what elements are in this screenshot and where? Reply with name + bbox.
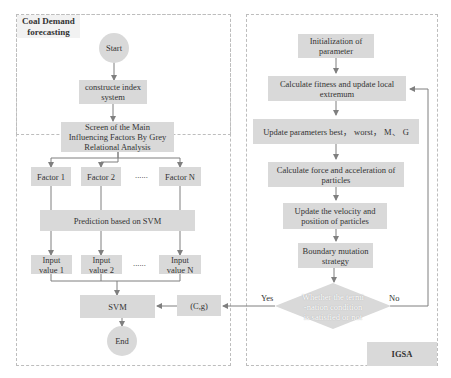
factor-ellipsis: ...... (135, 170, 148, 180)
coal-demand-title: Coal Demand forecasting (17, 15, 80, 38)
factor-2-box: Factor 2 (81, 167, 121, 186)
no-label: No (389, 293, 399, 303)
yes-label: Yes (261, 293, 273, 303)
force-box: Calculate force and acceleration of part… (268, 162, 404, 187)
input-ellipsis: ...... (133, 258, 146, 268)
update-params-box: Update parameters best， worst， M、 G (253, 119, 419, 144)
fitness-box: Calculate fitness and update local extre… (268, 76, 406, 101)
velocity-box: Update the velocity and position of part… (283, 203, 387, 229)
boundary-box: Boundary mutation strategy (298, 243, 373, 268)
input-n-box: Input value N (159, 255, 201, 274)
construct-index-box: constructe index system (79, 80, 147, 104)
factor-1-box: Factor 1 (31, 167, 71, 186)
igsa-title-box: IGSA (367, 342, 437, 366)
init-param-box: Initialization of parameter (298, 34, 374, 58)
svm-box: SVM (80, 295, 155, 318)
prediction-svm-box: Prediction based on SVM (40, 210, 195, 231)
grey-relational-box: Screen of the Main Influencing Factors B… (61, 122, 174, 152)
input-1-box: Input value 1 (31, 255, 72, 274)
cg-params-box: (C,g) (177, 295, 221, 316)
input-2-box: Input value 2 (81, 255, 122, 274)
start-node: Start (99, 33, 129, 63)
end-node: End (107, 326, 137, 356)
factor-n-box: Factor N (159, 167, 201, 186)
decision-text: Whether the termi -nation condition is s… (302, 292, 364, 322)
